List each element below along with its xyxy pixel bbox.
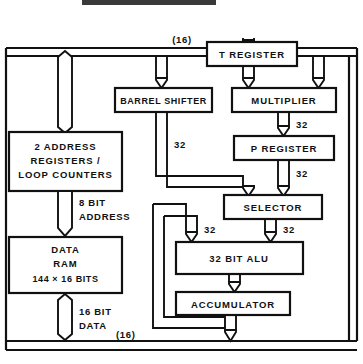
multiplier-out-arrowhead [278,126,289,136]
cropped-box-above [82,0,216,5]
multiplier-out-width-label: 32 [296,119,308,130]
data-bus-arrow [58,294,72,340]
data-bus-label-line1: 16 BIT [79,306,112,317]
bus-to-address-registers-arrow [58,51,72,133]
alu-left-input-arrowhead [186,232,197,242]
address-bus-label-line1: 8 BIT [79,197,106,208]
block-diagram: (16) 2 ADDRESS REGISTERS / LOOP COUNTERS… [0,0,363,364]
address-registers-line1: 2 ADDRESS [34,141,96,152]
data-ram-line1: DATA [51,244,80,255]
top-bus-label: (16) [172,34,192,45]
alu-out-arrowhead [229,282,240,292]
barrel-shifter-out-path-outer [156,112,243,186]
data-bus-label-line2: DATA [79,320,107,331]
accumulator-feedback-outer-top [153,204,186,232]
t-register-label: T REGISTER [219,49,285,60]
data-ram-line3: 144 × 16 BITS [32,274,98,284]
data-ram-line2: RAM [53,258,77,269]
alu-right-width-label: 32 [283,224,295,235]
address-registers-line2: REGISTERS / [30,155,100,166]
multiplier-label: MULTIPLIER [251,95,316,106]
accumulator-label: ACCUMULATOR [191,299,275,310]
accumulator-to-bus-arrowhead [225,330,236,341]
bus-to-multiplier-arrowhead [313,78,324,88]
bottom-bus-label: (16) [116,329,136,340]
diagram-canvas: (16) 2 ADDRESS REGISTERS / LOOP COUNTERS… [0,0,363,364]
accumulator-feedback-inner-top [164,216,197,232]
t-register-out-arrowhead [243,78,254,88]
address-bus-label-line2: ADDRESS [79,211,130,222]
barrel-shifter-width-label: 32 [174,139,186,150]
alu-left-width-label: 32 [204,224,216,235]
barrel-shifter-label: BARREL SHIFTER [120,96,207,106]
p-register-out-width-label: 32 [296,168,308,179]
selector-out-arrowhead [265,232,276,242]
alu-label: 32 BIT ALU [209,253,268,264]
address-bus-arrow [58,191,72,236]
selector-label: SELECTOR [244,202,303,213]
p-register-label: P REGISTER [251,143,317,154]
address-registers-line3: LOOP COUNTERS [18,169,112,180]
bus-to-barrel-shifter-arrowhead [156,78,167,88]
